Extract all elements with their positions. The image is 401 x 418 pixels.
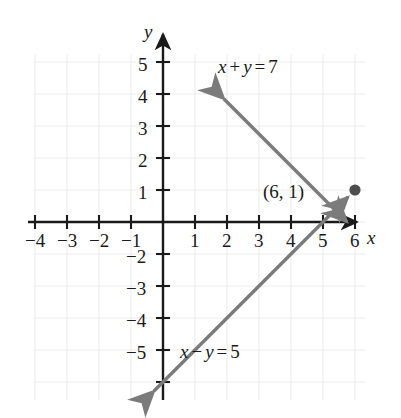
- eq-top-value: 7: [268, 56, 278, 77]
- line-x-plus-y-equals-7-main: [224, 99, 347, 222]
- x-tick-label-6: 6: [350, 231, 360, 250]
- x-tick-label-5: 5: [318, 231, 328, 250]
- y-tick-label-2: 2: [138, 151, 148, 170]
- y-tick-label-3: 3: [138, 119, 148, 138]
- eq-bottom-eq: =: [217, 341, 228, 362]
- y-tick-label-5: 5: [138, 55, 148, 74]
- x-tick-label-1: 1: [190, 231, 200, 250]
- equation-label-x-minus-y-5: x−y=5: [180, 342, 240, 361]
- intersection-point-label: (6, 1): [263, 182, 304, 201]
- eq-bottom-var2: y: [205, 341, 213, 362]
- x-tick-label-4: 4: [286, 231, 296, 250]
- eq-bottom-value: 5: [230, 341, 240, 362]
- eq-top-eq: =: [255, 56, 266, 77]
- y-tick-label-1: 1: [138, 183, 148, 202]
- y-tick-label-neg5: −5: [126, 343, 146, 362]
- x-tick-label-neg2: −2: [89, 231, 109, 250]
- y-axis-label: y: [144, 22, 152, 41]
- y-tick-label-neg2: −2: [126, 247, 146, 266]
- eq-top-var1: x: [218, 56, 226, 77]
- x-tick-label-neg4: −4: [25, 231, 45, 250]
- graph-figure: y x −4 −3 −2 −1 1 2 3 4 5 6 5 4 3 2 1 −2…: [0, 0, 401, 418]
- eq-bottom-op: −: [191, 341, 202, 362]
- y-tick-label-neg4: −4: [126, 311, 146, 330]
- eq-top-op: +: [229, 56, 240, 77]
- equation-label-x-plus-y-7: x+y=7: [218, 57, 278, 76]
- x-axis-label: x: [367, 228, 375, 247]
- eq-bottom-var1: x: [180, 341, 188, 362]
- y-tick-label-neg3: −3: [126, 279, 146, 298]
- x-tick-label-3: 3: [254, 231, 264, 250]
- eq-top-var2: y: [243, 56, 251, 77]
- intersection-point-dot: [349, 184, 360, 195]
- y-tick-label-4: 4: [138, 87, 148, 106]
- x-tick-label-2: 2: [222, 231, 232, 250]
- x-tick-label-neg3: −3: [57, 231, 77, 250]
